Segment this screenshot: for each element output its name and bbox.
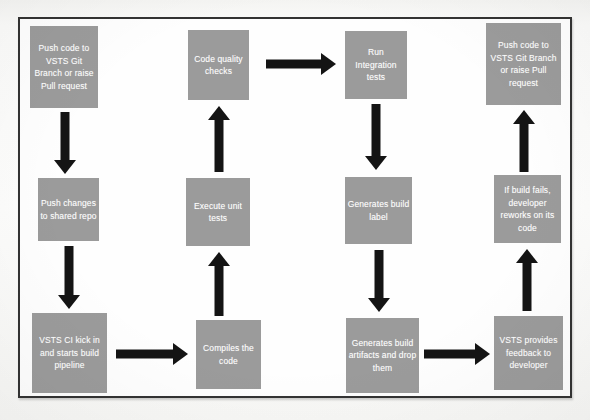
node-generates-build-label[interactable]: Generates build label — [345, 177, 412, 244]
node-label: Run Integration tests — [347, 46, 405, 84]
node-generates-artifacts[interactable]: Generates build artifacts and drop them — [346, 318, 419, 393]
flowchart-canvas: Push code to VSTS Git Branch or raise Pu… — [0, 0, 590, 420]
node-run-integration-tests[interactable]: Run Integration tests — [345, 31, 407, 99]
node-label: VSTS CI kick in and starts build pipelin… — [34, 334, 105, 372]
arrow-shaft — [520, 123, 529, 172]
arrow-build-label-to-artifacts — [366, 250, 392, 312]
arrow-execute-unit-tests-to-quality — [206, 106, 232, 172]
node-vsts-provides-feedback[interactable]: VSTS provides feedback to developer — [494, 316, 563, 390]
arrow-shaft — [375, 250, 384, 299]
arrow-shaft — [65, 246, 74, 296]
arrow-head-icon — [475, 343, 490, 365]
node-push-code-right[interactable]: Push code to VSTS Git Branch or raise Pu… — [486, 23, 561, 105]
node-label: Push code to VSTS Git Branch or raise Pu… — [32, 42, 96, 92]
arrow-push-changes-to-vsts-ci — [56, 246, 82, 309]
arrow-head-icon — [516, 249, 538, 263]
arrow-artifacts-to-feedback — [424, 342, 490, 366]
arrow-shaft — [523, 262, 532, 311]
arrow-head-icon — [54, 160, 76, 174]
node-label: Push code to VSTS Git Branch or raise Pu… — [488, 39, 559, 89]
arrow-shaft — [215, 119, 224, 172]
node-push-changes-repo[interactable]: Push changes to shared repo — [38, 178, 99, 241]
node-label: If build fails, developer reworks on its… — [496, 184, 559, 234]
arrow-shaft — [266, 60, 322, 69]
arrow-feedback-to-build-fails — [514, 249, 540, 311]
arrow-head-icon — [58, 295, 80, 309]
arrow-build-fails-to-push-code-right — [511, 110, 537, 172]
arrow-head-icon — [368, 298, 390, 312]
arrow-head-icon — [173, 343, 188, 365]
arrow-shaft — [372, 104, 381, 157]
node-push-code-left[interactable]: Push code to VSTS Git Branch or raise Pu… — [30, 26, 98, 108]
arrow-head-icon — [208, 106, 230, 120]
node-build-fails-rework[interactable]: If build fails, developer reworks on its… — [494, 175, 561, 243]
arrow-shaft — [424, 350, 476, 359]
node-vsts-ci-kick-in[interactable]: VSTS CI kick in and starts build pipelin… — [32, 313, 107, 393]
arrow-head-icon — [365, 156, 387, 170]
arrow-vsts-ci-to-compiles — [116, 342, 188, 366]
node-compiles-the-code[interactable]: Compiles the code — [196, 320, 261, 389]
node-label: VSTS provides feedback to developer — [496, 334, 561, 372]
node-label: Code quality checks — [190, 53, 247, 78]
node-code-quality-checks[interactable]: Code quality checks — [188, 30, 249, 100]
arrow-push-code-to-push-changes — [52, 112, 78, 174]
arrow-shaft — [215, 265, 224, 316]
node-label: Generates build artifacts and drop them — [348, 337, 417, 375]
node-label: Compiles the code — [198, 342, 259, 367]
node-label: Generates build label — [347, 198, 410, 223]
arrow-run-integration-to-build-label — [363, 104, 389, 170]
node-label: Push changes to shared repo — [40, 197, 97, 222]
arrow-head-icon — [321, 53, 336, 75]
node-execute-unit-tests[interactable]: Execute unit tests — [186, 178, 250, 246]
arrow-shaft — [116, 350, 174, 359]
arrow-shaft — [61, 112, 70, 161]
arrow-quality-to-run-integration — [266, 52, 336, 76]
arrow-head-icon — [513, 110, 535, 124]
arrow-head-icon — [208, 252, 230, 266]
node-label: Execute unit tests — [188, 200, 248, 225]
arrow-compiles-to-execute-unit-tests — [206, 252, 232, 316]
